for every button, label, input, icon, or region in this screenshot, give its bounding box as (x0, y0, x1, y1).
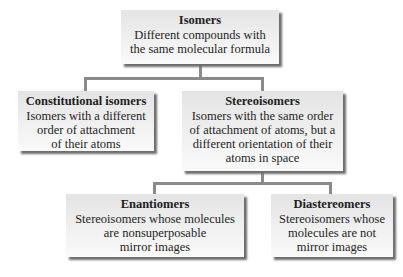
node-stereoisomers: Stereoisomers Isomers with the same orde… (182, 91, 343, 171)
connector-level1-horizontal (84, 77, 264, 80)
connector-to-constitutional (84, 77, 87, 92)
node-isomers-description: Different compounds with the same molecu… (121, 28, 279, 56)
node-constitutional-isomers: Constitutional isomers Isomers with a di… (18, 91, 154, 151)
node-isomers-title: Isomers (121, 13, 279, 28)
node-enantiomers-description: Stereoisomers whose molecules are nonsup… (66, 212, 244, 254)
connector-level2-horizontal (153, 182, 332, 185)
node-isomers: Isomers Different compounds with the sam… (121, 10, 279, 64)
isomer-classification-diagram: Isomers Different compounds with the sam… (0, 0, 403, 277)
node-enantiomers-title: Enantiomers (66, 197, 244, 212)
node-constitutional-description: Isomers with a different order of attach… (18, 109, 154, 151)
node-diastereomers: Diastereomers Stereoisomers whose molecu… (271, 194, 393, 257)
node-enantiomers: Enantiomers Stereoisomers whose molecule… (66, 194, 244, 257)
node-diastereomers-description: Stereoisomers whose molecules are not mi… (271, 212, 393, 254)
connector-to-stereoisomers (261, 77, 264, 92)
node-stereoisomers-title: Stereoisomers (182, 94, 343, 109)
node-constitutional-title: Constitutional isomers (18, 94, 154, 109)
node-stereoisomers-description: Isomers with the same order of attachmen… (182, 109, 343, 165)
node-diastereomers-title: Diastereomers (271, 197, 393, 212)
